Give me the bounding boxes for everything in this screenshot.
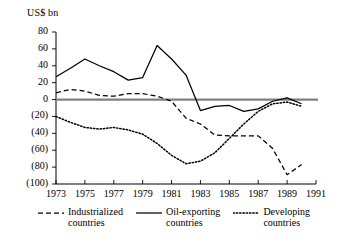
chart-legend: Industrialized countriesOil-exporting co… [0, 206, 348, 228]
legend-item[interactable]: Developing countries [233, 206, 310, 228]
legend-swatch-icon [136, 207, 162, 219]
legend-item[interactable]: Industrialized countries [38, 206, 123, 228]
chart-series-lines [56, 46, 302, 175]
legend-swatch-icon [233, 207, 259, 219]
legend-label: Oil-exporting countries [166, 206, 220, 228]
series-line [56, 46, 302, 112]
chart-figure: US$ bn 806040200(20)(40)(60)(80)(100) 19… [0, 0, 348, 243]
legend-item[interactable]: Oil-exporting countries [136, 206, 220, 228]
series-line [56, 89, 302, 174]
legend-label: Developing countries [263, 206, 310, 228]
legend-label: Industrialized countries [68, 206, 123, 228]
chart-axes [52, 32, 316, 184]
series-line [56, 102, 302, 164]
legend-swatch-icon [38, 207, 64, 219]
